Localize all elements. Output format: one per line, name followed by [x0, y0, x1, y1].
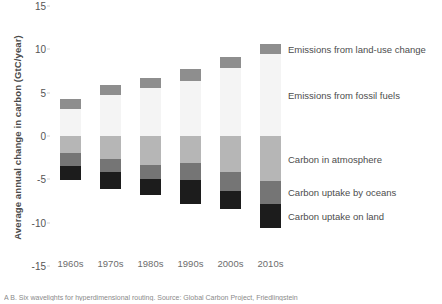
bar-segment[interactable] [140, 179, 161, 195]
bar-segment[interactable] [220, 191, 241, 209]
bar-segment[interactable] [60, 99, 81, 109]
y-axis-tick-mark [47, 6, 50, 7]
bar-segment[interactable] [140, 136, 161, 165]
y-axis-tick-label: 15 [35, 1, 46, 12]
y-axis-tick-mark [47, 92, 50, 93]
stacked-bar[interactable] [140, 6, 161, 266]
bar-segment[interactable] [260, 204, 281, 228]
stacked-bar[interactable] [260, 6, 281, 266]
x-axis-tick-label: 1960s [49, 258, 93, 269]
bar-segment[interactable] [60, 153, 81, 166]
bar-segment[interactable] [100, 85, 121, 95]
bar-segment[interactable] [180, 69, 201, 81]
stacked-bar[interactable] [180, 6, 201, 266]
y-axis-tick-label: -15 [32, 261, 46, 272]
legend-item-label: Carbon uptake on land [288, 210, 384, 221]
stacked-bar[interactable] [220, 6, 241, 266]
stacked-bar[interactable] [100, 6, 121, 266]
bar-segment[interactable] [100, 95, 121, 136]
bar-segment[interactable] [260, 181, 281, 204]
y-axis-tick-label: -10 [32, 217, 46, 228]
bar-segment[interactable] [100, 136, 121, 159]
bar-segment[interactable] [140, 78, 161, 88]
figure-caption: A B. Six wavelights for hyperdimensional… [4, 294, 442, 301]
y-axis-tick-label: 0 [40, 131, 46, 142]
bar-segment[interactable] [60, 136, 81, 153]
bar-segment[interactable] [140, 165, 161, 179]
bar-segment[interactable] [60, 166, 81, 180]
y-axis-tick-label: 10 [35, 44, 46, 55]
y-axis-tick-label: -5 [37, 174, 46, 185]
bar-segment[interactable] [180, 180, 201, 203]
legend-item-label: Emissions from fossil fuels [288, 89, 400, 100]
y-axis-tick-mark [47, 222, 50, 223]
legend-item-label: Emissions from land-use change [288, 43, 426, 54]
x-axis-tick-label: 2010s [249, 258, 293, 269]
bar-segment[interactable] [260, 136, 281, 181]
legend-item-label: Carbon in atmosphere [288, 153, 382, 164]
x-axis-tick-label: 1990s [169, 258, 213, 269]
bar-segment[interactable] [220, 136, 241, 172]
y-axis-tick-mark [47, 179, 50, 180]
x-axis-tick-label: 1970s [89, 258, 133, 269]
legend-item-label: Carbon uptake by oceans [288, 187, 396, 198]
bar-segment[interactable] [220, 57, 241, 68]
bar-segment[interactable] [220, 172, 241, 191]
x-axis-tick-label: 1980s [129, 258, 173, 269]
stacked-bar[interactable] [60, 6, 81, 266]
y-axis-tick-label: 5 [40, 87, 46, 98]
bar-segment[interactable] [220, 68, 241, 136]
bar-segment[interactable] [140, 88, 161, 136]
bar-segment[interactable] [180, 136, 201, 163]
bar-segment[interactable] [260, 44, 281, 54]
bar-segment[interactable] [180, 163, 201, 180]
bar-segment[interactable] [260, 54, 281, 136]
y-axis-tick-mark [47, 49, 50, 50]
bar-segment[interactable] [100, 159, 121, 173]
carbon-budget-chart: Average annual change in carbon (GtC/yea… [0, 0, 442, 304]
bar-segment[interactable] [100, 172, 121, 188]
x-axis-tick-label: 2000s [209, 258, 253, 269]
bar-segment[interactable] [180, 81, 201, 136]
bar-segment[interactable] [60, 109, 81, 136]
y-axis-title: Average annual change in carbon (GtC/yea… [12, 13, 23, 263]
y-axis-tick-mark [47, 136, 50, 137]
plot-area: 151050-5-10-15 1960s1970s1980s1990s2000s… [50, 6, 290, 266]
